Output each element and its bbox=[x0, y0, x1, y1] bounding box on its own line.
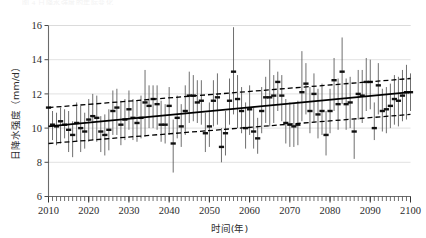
y-axis-tick-label: 10 bbox=[32, 123, 43, 134]
y-axis-tick-label: 16 bbox=[32, 20, 43, 31]
x-axis-tick-label: 2040 bbox=[159, 205, 180, 216]
y-axis-tick-label: 14 bbox=[32, 54, 43, 65]
x-axis: 2010202020302040205020602070208020902100 bbox=[38, 197, 421, 217]
errorbar-series bbox=[46, 27, 413, 172]
x-axis-tick-label: 2050 bbox=[199, 205, 220, 216]
y-axis-title: 日降水强度（mm/d） bbox=[10, 62, 21, 160]
x-axis-tick-label: 2060 bbox=[239, 205, 260, 216]
x-axis-tick-label: 2100 bbox=[400, 205, 421, 216]
x-axis-tick-label: 2090 bbox=[360, 205, 381, 216]
daily-precipitation-intensity-chart: 2010202020302040205020602070208020902100… bbox=[0, 0, 426, 238]
x-axis-tick-label: 2080 bbox=[320, 205, 341, 216]
x-axis-tick-label: 2070 bbox=[279, 205, 300, 216]
figure-container: 图 4 日降水强度的年际变化 2010202020302040205020602… bbox=[0, 0, 426, 238]
x-axis-tick-label: 2020 bbox=[78, 205, 99, 216]
x-axis-tick-label: 2010 bbox=[38, 205, 59, 216]
y-axis: 6810121416 bbox=[32, 20, 49, 202]
y-axis-tick-label: 6 bbox=[37, 191, 42, 202]
x-axis-title: 时间(年) bbox=[211, 223, 248, 234]
x-axis-tick-label: 2030 bbox=[118, 205, 139, 216]
y-axis-tick-label: 8 bbox=[37, 157, 42, 168]
y-axis-tick-label: 12 bbox=[32, 89, 43, 100]
